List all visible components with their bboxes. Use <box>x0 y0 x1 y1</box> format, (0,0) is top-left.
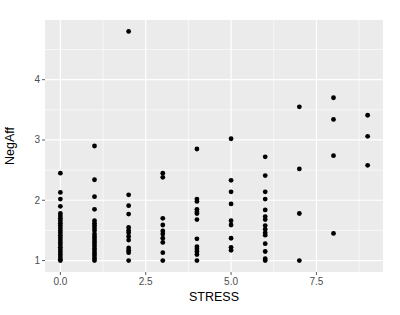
x-tick-label: 7.5 <box>309 276 323 287</box>
x-tick-label: 2.5 <box>139 276 153 287</box>
data-point <box>195 147 200 152</box>
data-point <box>160 240 165 245</box>
data-point <box>331 117 336 122</box>
data-point <box>365 113 370 118</box>
data-point <box>58 204 63 209</box>
data-point <box>58 190 63 195</box>
data-point <box>92 207 97 212</box>
data-point <box>195 236 200 241</box>
data-point <box>195 252 200 257</box>
data-point <box>195 217 200 222</box>
data-point <box>297 258 302 263</box>
data-point <box>160 232 165 237</box>
data-point <box>263 233 268 238</box>
data-point <box>58 258 63 263</box>
x-tick-label: 0.0 <box>53 276 67 287</box>
data-point <box>331 95 336 100</box>
data-point <box>126 203 131 208</box>
data-point <box>160 250 165 255</box>
data-point <box>297 211 302 216</box>
data-point <box>365 134 370 139</box>
data-point <box>331 153 336 158</box>
data-point <box>126 250 131 255</box>
data-point <box>263 154 268 159</box>
data-point <box>297 167 302 172</box>
data-point <box>160 171 165 176</box>
data-point <box>160 223 165 228</box>
data-point <box>229 189 234 194</box>
data-point <box>126 192 131 197</box>
y-axis-title: NegAff <box>3 126 17 165</box>
data-point <box>58 197 63 202</box>
scatter-chart: 1234 0.02.55.07.5 STRESS NegAff <box>0 0 400 315</box>
data-point <box>365 163 370 168</box>
data-point <box>126 212 131 217</box>
data-point <box>229 136 234 141</box>
data-point <box>126 238 131 243</box>
data-point <box>263 208 268 213</box>
data-point <box>160 258 165 263</box>
data-point <box>92 258 97 263</box>
data-point <box>263 241 268 246</box>
data-point <box>263 197 268 202</box>
x-axis: 0.02.55.07.5 <box>53 272 323 287</box>
x-tick-label: 5.0 <box>224 276 238 287</box>
data-point <box>263 217 268 222</box>
data-point <box>229 236 234 241</box>
data-point <box>92 194 97 199</box>
data-point <box>229 178 234 183</box>
data-point <box>92 144 97 149</box>
data-point <box>263 258 268 263</box>
data-point <box>263 249 268 254</box>
data-point <box>92 177 97 182</box>
y-axis: 1234 <box>34 74 45 266</box>
y-tick-label: 4 <box>34 74 40 85</box>
data-point <box>263 173 268 178</box>
y-tick-label: 3 <box>34 134 40 145</box>
data-point <box>229 248 234 253</box>
data-point <box>160 236 165 241</box>
data-point <box>229 223 234 228</box>
x-axis-title: STRESS <box>189 290 239 304</box>
data-point <box>195 258 200 263</box>
data-point <box>229 218 234 223</box>
data-point <box>195 199 200 204</box>
data-point <box>331 231 336 236</box>
data-point <box>160 216 165 221</box>
data-point <box>160 175 165 180</box>
data-point <box>195 211 200 216</box>
data-point <box>229 201 234 206</box>
data-point <box>126 29 131 34</box>
data-point <box>58 171 63 176</box>
y-tick-label: 2 <box>34 195 40 206</box>
data-point <box>126 258 131 263</box>
data-point <box>263 189 268 194</box>
y-tick-label: 1 <box>34 255 40 266</box>
data-point <box>297 104 302 109</box>
